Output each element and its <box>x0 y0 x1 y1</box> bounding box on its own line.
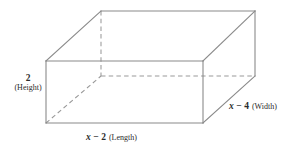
label-height: 2 (Height) <box>8 73 48 93</box>
label-width-operator: − <box>236 101 241 111</box>
label-length-operator: − <box>93 132 98 142</box>
box-drawing <box>0 0 296 143</box>
label-length-value: 2 <box>101 132 106 142</box>
edge-top-right-diagonal <box>203 11 255 61</box>
rectangular-prism-figure: 2 (Height) x−2(Length) x−4(Width) <box>0 0 296 143</box>
solid-edges-group <box>46 11 255 123</box>
label-width: x−4(Width) <box>229 95 277 113</box>
label-length-name: (Length) <box>109 133 137 142</box>
label-length-variable: x <box>86 132 91 142</box>
hidden-edges-group <box>46 11 255 123</box>
label-width-name: (Width) <box>252 102 277 111</box>
edge-top-left-diagonal <box>46 11 101 61</box>
label-width-variable: x <box>229 101 234 111</box>
label-width-value: 4 <box>244 101 249 111</box>
hidden-edge-bottom-left-diagonal <box>46 76 101 123</box>
label-length: x−2(Length) <box>86 126 137 143</box>
label-height-name: (Height) <box>8 84 48 93</box>
